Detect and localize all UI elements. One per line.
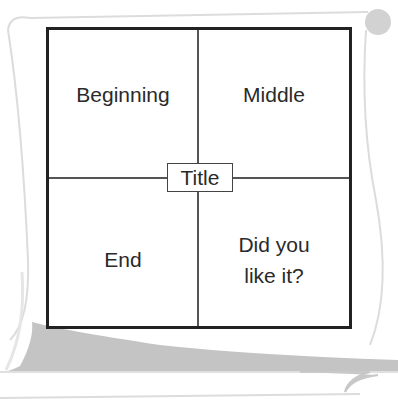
title-label: Title: [181, 166, 220, 190]
beginning-label: Beginning: [76, 79, 169, 111]
opinion-label-line1: Did you: [238, 229, 309, 261]
middle-label: Middle: [243, 79, 305, 111]
title-box: Title: [167, 163, 233, 192]
quadrant-opinion: Did you like it?: [199, 210, 349, 310]
end-label: End: [104, 244, 141, 276]
story-grid: Beginning Middle End Did you like it? Ti…: [46, 27, 352, 329]
quadrant-middle: Middle: [199, 50, 349, 140]
quadrant-end: End: [49, 210, 197, 310]
opinion-label-line2: like it?: [238, 260, 309, 292]
quadrant-beginning: Beginning: [49, 50, 197, 140]
